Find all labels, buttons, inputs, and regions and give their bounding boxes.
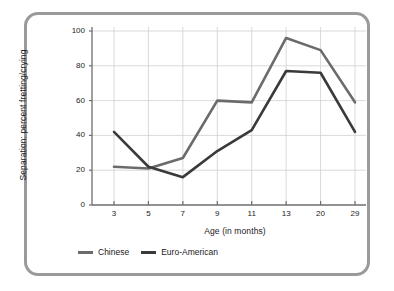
x-axis-title: Age (in months) (100, 226, 370, 236)
gridlines (92, 27, 366, 205)
y-axis-title: Separation: percent fretting/crying (18, 45, 28, 185)
y-tick-label: 100 (61, 26, 85, 35)
y-tick-label: 80 (61, 61, 85, 70)
axis-lines (92, 27, 366, 205)
y-tick-label: 20 (61, 165, 85, 174)
tick-marks (89, 31, 355, 205)
x-tick-label: 9 (207, 209, 227, 218)
x-tick-label: 7 (173, 209, 193, 218)
line-chart: Separation: percent fretting/crying Age … (0, 0, 394, 291)
legend-swatch-icon (78, 251, 93, 254)
x-tick-label: 20 (311, 209, 331, 218)
x-tick-label: 11 (242, 209, 262, 218)
legend-entry: Euro-American (141, 247, 218, 257)
series-line (114, 71, 355, 177)
data-series (114, 38, 355, 177)
legend-label: Chinese (98, 247, 129, 257)
y-tick-label: 0 (61, 200, 85, 209)
x-tick-label: 5 (138, 209, 158, 218)
y-tick-label: 40 (61, 130, 85, 139)
series-line (114, 38, 355, 169)
x-tick-label: 13 (276, 209, 296, 218)
legend-entry: Chinese (78, 247, 129, 257)
x-tick-label: 29 (345, 209, 365, 218)
x-tick-label: 3 (104, 209, 124, 218)
legend-label: Euro-American (161, 247, 218, 257)
chart-legend: ChineseEuro-American (78, 247, 218, 257)
legend-swatch-icon (141, 251, 156, 254)
y-tick-label: 60 (61, 96, 85, 105)
